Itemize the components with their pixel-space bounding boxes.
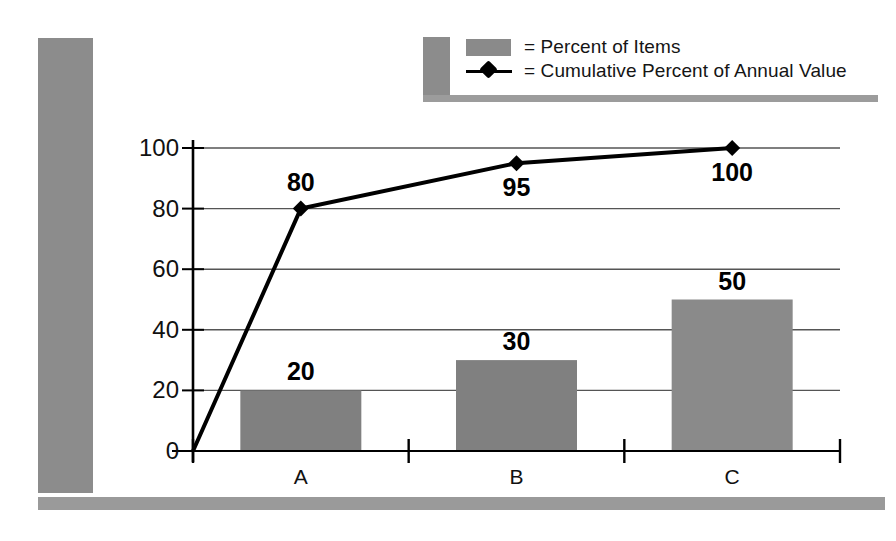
x-axis-tick-label: C <box>697 465 767 489</box>
cumulative-value-label: 100 <box>692 158 772 187</box>
bar <box>672 300 793 452</box>
line-marker <box>293 201 309 217</box>
cumulative-value-label: 80 <box>261 168 341 197</box>
y-axis-tick-label: 40 <box>131 316 179 344</box>
line-marker <box>724 140 740 156</box>
cumulative-value-label: 95 <box>477 173 557 202</box>
bar-value-label: 50 <box>692 267 772 296</box>
line-marker <box>509 155 525 171</box>
y-axis-tick-label: 0 <box>131 437 179 465</box>
pareto-chart: 100806040200 ABC 2030508095100 <box>0 0 896 541</box>
x-axis-tick-label: B <box>482 465 552 489</box>
bar <box>240 390 361 451</box>
bar-value-label: 30 <box>477 327 557 356</box>
bar-value-label: 20 <box>261 357 341 386</box>
y-axis-tick-label: 20 <box>131 376 179 404</box>
bar <box>456 360 577 451</box>
y-axis-tick-label: 100 <box>131 134 179 162</box>
y-axis-tick-label: 80 <box>131 195 179 223</box>
y-axis-tick-label: 60 <box>131 255 179 283</box>
x-axis-tick-label: A <box>266 465 336 489</box>
